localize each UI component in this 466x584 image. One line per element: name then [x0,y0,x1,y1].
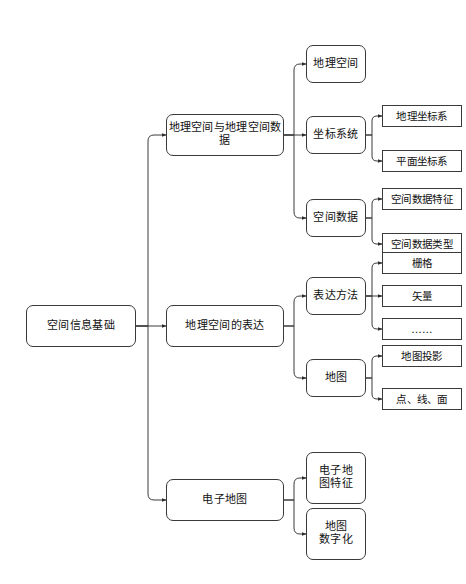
node-point-line-area[interactable]: 点、线、面 [382,388,462,410]
edge-branch2-to-map [284,326,306,378]
node-geographic-coordinate-label: 地理坐标系 [396,110,448,122]
node-root-label: 空间信息基础 [47,320,115,333]
node-coordinate-system[interactable]: 坐标系统 [306,116,366,154]
edge-method-to-ellipsis [366,296,382,329]
node-spatial-data-label: 空间数据 [313,212,358,225]
edge-branch1-to-geospace [284,64,306,135]
node-spatial-data[interactable]: 空间数据 [306,199,366,237]
node-emap-feature[interactable]: 电子地 图特征 [306,452,366,504]
node-raster-label: 栅格 [412,257,433,269]
node-branch3-label: 电子地图 [202,494,247,507]
node-point-line-area-label: 点、线、面 [396,393,448,405]
node-raster[interactable]: 栅格 [382,252,462,274]
node-geospace[interactable]: 地理空间 [306,45,366,83]
edge-method-to-raster [366,263,382,296]
node-plane-coordinate-label: 平面坐标系 [396,155,448,167]
node-expression-method-label: 表达方法 [313,290,358,303]
node-map-digitization[interactable]: 地图 数字化 [306,508,366,560]
edge-map-to-projection [366,356,382,378]
node-plane-coordinate[interactable]: 平面坐标系 [382,150,462,172]
node-map[interactable]: 地图 [306,359,366,397]
node-emap-feature-label: 电子地 图特征 [319,465,353,491]
node-coordinate-system-label: 坐标系统 [313,129,358,142]
edge-root-to-branch1 [136,135,166,326]
node-vector-label: 矢量 [412,290,433,302]
edge-coordsys-to-plancoord [366,135,382,161]
node-branch1-label: 地理空间与地理空间数据 [167,122,283,148]
node-branch2[interactable]: 地理空间的表达 [166,305,284,347]
node-spatial-data-type-label: 空间数据类型 [391,238,453,250]
edge-coordsys-to-geocoord [366,116,382,135]
node-root[interactable]: 空间信息基础 [26,305,136,347]
edge-branch3-to-emapfeature [284,478,306,500]
node-spatial-data-feature[interactable]: 空间数据特征 [382,188,462,210]
node-branch1[interactable]: 地理空间与地理空间数据 [166,114,284,156]
node-branch3[interactable]: 电子地图 [166,479,284,521]
node-geospace-label: 地理空间 [313,58,358,71]
edge-branch2-to-method [284,296,306,326]
node-ellipsis-label: …… [411,323,433,335]
node-ellipsis[interactable]: …… [382,318,462,340]
node-geographic-coordinate[interactable]: 地理坐标系 [382,105,462,127]
node-expression-method[interactable]: 表达方法 [306,277,366,315]
edge-branch1-to-spatialdata [284,135,306,218]
node-map-digitization-label: 地图 数字化 [319,521,353,547]
edge-spatial-to-feature [366,199,382,218]
node-branch2-label: 地理空间的表达 [185,320,264,333]
node-map-label: 地图 [325,372,348,385]
node-map-projection-label: 地图投影 [401,350,442,362]
edge-root-to-branch3 [136,326,166,500]
edge-branch3-to-mapdigital [284,500,306,534]
mindmap-canvas: 空间信息基础 地理空间与地理空间数据 地理空间的表达 电子地图 地理空间 坐标系… [0,0,466,584]
node-map-projection[interactable]: 地图投影 [382,345,462,367]
edge-map-to-pointlinearea [366,378,382,399]
node-vector[interactable]: 矢量 [382,285,462,307]
node-spatial-data-feature-label: 空间数据特征 [391,193,453,205]
edge-spatial-to-type [366,218,382,244]
